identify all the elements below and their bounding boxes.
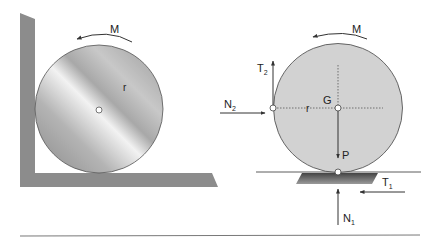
moment-label: M [110,23,119,35]
center-label: G [323,94,332,106]
wall-contact-point [270,105,276,111]
moment-label: M [352,23,361,35]
right-figure: M G r P T2 N2 T1 N1 [220,23,421,226]
weight-label: P [342,149,349,161]
left-figure: M r [20,13,218,187]
wall-friction-label: T2 [257,62,268,76]
wall-normal-label: N2 [224,98,236,112]
center-of-mass-point [335,105,341,111]
floor-normal-label: N1 [343,212,355,226]
floor-contact-point [335,169,341,175]
bottom-rule [20,235,420,236]
cylinder-center-point [96,107,102,113]
moment-arrow-icon [77,34,132,42]
cylinder-statics-diagram: M r M G r P T2 N2 [0,0,435,246]
floor-friction-label: T1 [382,176,393,190]
